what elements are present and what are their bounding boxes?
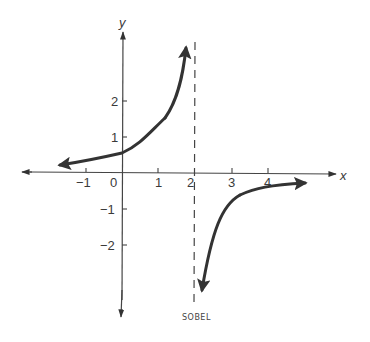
x-tick-label-1: 1 [155, 175, 162, 190]
x-tick-label-3: 3 [228, 175, 235, 190]
curve-lower-branch [202, 195, 240, 290]
y-tick-label-2: 2 [111, 94, 118, 109]
signature-text: SOBEL [182, 313, 211, 322]
x-tick-label-2: 2 [187, 175, 194, 190]
y-axis-label: y [118, 15, 127, 30]
y-axis [121, 32, 123, 317]
vertical-asymptote [194, 42, 195, 302]
x-axis-label: x [339, 168, 347, 183]
x-tick-label-0: 0 [110, 175, 117, 190]
curve-right-branch [240, 183, 305, 195]
curve-upper-branch [165, 48, 186, 118]
x-axis [22, 172, 336, 174]
y-tick-label-neg2: −2 [100, 238, 115, 253]
x-tick-label-neg1: −1 [76, 175, 91, 190]
y-tick-label-neg1: −1 [100, 202, 115, 217]
y-tick-label-1: 1 [111, 130, 118, 145]
function-graph: −1 0 1 2 3 4 2 1 −1 −2 y x SOBEL [0, 0, 370, 342]
